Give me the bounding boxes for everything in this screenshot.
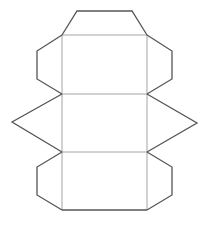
- upper-right-flap-edge: [147, 35, 172, 94]
- net-outline: [12, 11, 197, 210]
- right-triangle-edge: [147, 94, 197, 152]
- lower-left-flap-edge: [37, 152, 62, 210]
- fold-lines: [62, 35, 147, 210]
- left-triangle-edge: [12, 94, 62, 152]
- upper-left-flap-edge: [37, 35, 62, 94]
- geometric-net-diagram: [0, 0, 213, 225]
- lower-right-flap-edge: [147, 152, 172, 210]
- top-trapezoid-edge: [62, 11, 147, 35]
